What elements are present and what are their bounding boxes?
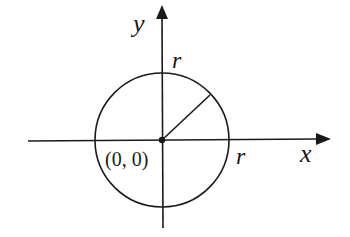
y-axis	[162, 18, 163, 228]
y-axis-arrowhead	[156, 5, 168, 19]
radius-label-right: r	[236, 143, 246, 169]
y-axis-label: y	[130, 9, 145, 38]
radius-label-top: r	[172, 47, 182, 73]
x-axis	[28, 139, 318, 141]
circle-diagram: y x r r (0, 0)	[0, 0, 350, 237]
x-axis-arrowhead	[316, 133, 331, 145]
origin-point	[159, 137, 165, 143]
x-axis-label: x	[299, 139, 312, 168]
radius-line	[162, 95, 210, 140]
origin-label: (0, 0)	[105, 148, 148, 171]
